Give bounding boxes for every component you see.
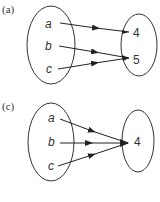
arrowhead-icon <box>120 139 129 147</box>
arrowhead-icon <box>122 30 129 34</box>
panel-a-domain-element-a: a <box>45 17 52 31</box>
panel-a-arrow-b-to-5 <box>59 46 129 58</box>
panel-a-codomain-element-4: 4 <box>133 26 140 40</box>
panel-a-arrow-a-to-4 <box>60 23 129 32</box>
panel-c-codomain-element-4: 4 <box>134 135 141 149</box>
panel-c-arrow-a-to-4 <box>60 119 128 143</box>
panel-a: (a) a b c 4 5 <box>2 3 157 84</box>
function-mapping-diagram: (a) a b c 4 5 (c) a b c 4 <box>0 0 160 202</box>
panel-a-domain-element-c: c <box>46 62 52 76</box>
panel-c-domain-element-c: c <box>48 159 54 173</box>
panel-c-label: (c) <box>2 100 15 113</box>
panel-c-domain-element-a: a <box>48 111 55 125</box>
panel-c-arrow-c-to-4 <box>58 143 128 166</box>
panel-a-label: (a) <box>2 3 15 16</box>
panel-c: (c) a b c 4 <box>2 100 154 181</box>
panel-a-arrow-c-to-5 <box>58 58 129 69</box>
panel-a-codomain-element-5: 5 <box>133 53 140 67</box>
panel-a-domain-element-b: b <box>45 39 52 53</box>
panel-c-domain-element-b: b <box>48 135 55 149</box>
